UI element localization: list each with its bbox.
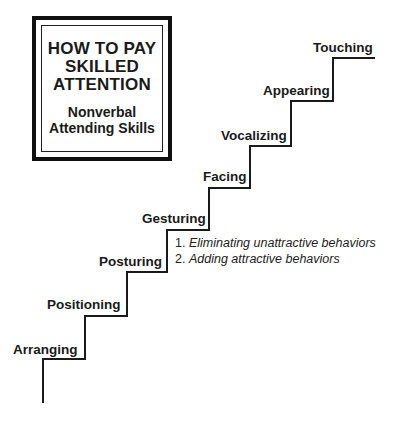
step-label-gesturing: Gesturing [142, 211, 206, 227]
step-label-touching: Touching [313, 40, 373, 56]
gesturing-notes: 1. Eliminating unattractive behaviors 2.… [175, 235, 376, 267]
step-label-appearing: Appearing [263, 83, 330, 99]
step-label-posturing: Posturing [99, 254, 162, 270]
note-item: 1. Eliminating unattractive behaviors [175, 235, 376, 251]
step-label-facing: Facing [203, 169, 247, 185]
note-number: 2. [175, 252, 185, 266]
step-label-vocalizing: Vocalizing [221, 128, 287, 144]
step-label-positioning: Positioning [47, 297, 121, 313]
note-text: Eliminating unattractive behaviors [189, 236, 376, 250]
note-item: 2. Adding attractive behaviors [175, 251, 376, 267]
step-label-arranging: Arranging [13, 342, 78, 358]
note-number: 1. [175, 236, 185, 250]
note-text: Adding attractive behaviors [189, 252, 340, 266]
